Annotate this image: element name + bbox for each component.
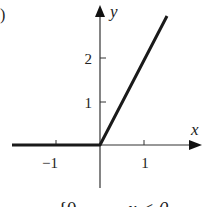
y-tick-label: 1 <box>85 95 93 111</box>
x-axis-arrow-icon <box>189 140 202 150</box>
caption-right: x < 0 <box>127 198 169 207</box>
caption-left: {0 <box>58 198 77 207</box>
y-axis-label: y <box>108 2 118 21</box>
y-axis-arrow-icon <box>95 5 105 17</box>
x-tick-label: 1 <box>141 155 149 171</box>
series-line <box>12 16 167 145</box>
panel-label: ) <box>0 6 5 24</box>
y-tick-label: 2 <box>85 51 93 67</box>
x-tick-label: −1 <box>42 155 58 171</box>
x-axis-label: x <box>190 120 199 139</box>
chart-canvas: ) x y −1 1 1 2 {0 x < 0 <box>0 0 213 207</box>
